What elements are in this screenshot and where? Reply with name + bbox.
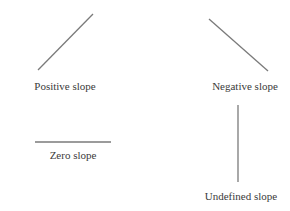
- positive-slope-line: [38, 14, 93, 70]
- negative-slope-line: [209, 19, 268, 71]
- undefined-slope-label: Undefined slope: [205, 190, 277, 202]
- positive-slope-label: Positive slope: [34, 80, 95, 92]
- slope-diagram: Positive slope Negative slope Zero slope…: [0, 0, 290, 211]
- slope-lines: [0, 0, 290, 211]
- zero-slope-label: Zero slope: [50, 149, 97, 161]
- negative-slope-label: Negative slope: [212, 80, 278, 92]
